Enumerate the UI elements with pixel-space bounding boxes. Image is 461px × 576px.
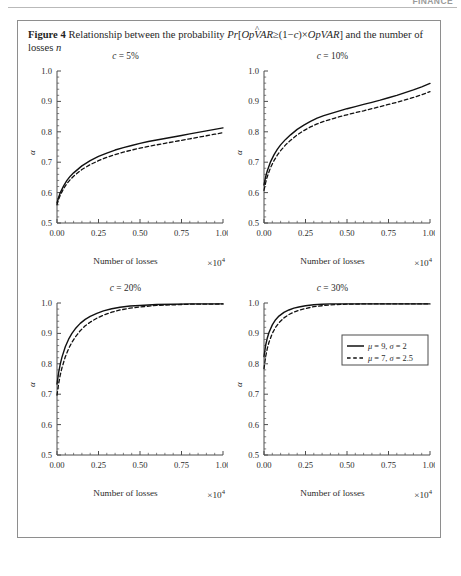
svg-text:0.6: 0.6 — [41, 420, 52, 430]
x-axis-exponent-c10: ×104 — [414, 256, 432, 268]
running-head-rule — [8, 7, 457, 8]
figure-caption-text-1: Relationship between the probability — [68, 29, 227, 40]
svg-text:0.25: 0.25 — [91, 460, 106, 470]
chart-title-c10: c = 10% — [230, 51, 435, 61]
svg-text:1.00: 1.00 — [422, 460, 435, 470]
svg-text:1.0: 1.0 — [248, 66, 259, 76]
figure-caption-label: Figure 4 — [28, 29, 66, 40]
x-axis-title-c30: Number of losses — [230, 488, 435, 498]
x-axis-title-c5: Number of losses — [23, 256, 228, 266]
svg-text:μ = 9, σ = 2: μ = 9, σ = 2 — [367, 342, 407, 351]
svg-text:1.00: 1.00 — [215, 228, 228, 238]
chart-title-value-c10: 10% — [331, 51, 348, 61]
formula-pr: Pr — [227, 29, 238, 40]
svg-text:1.0: 1.0 — [41, 298, 52, 308]
x-exp-power-c10: 4 — [429, 256, 432, 263]
chart-plot-c30: 1.00.90.80.70.60.50.000.250.500.751.00μ … — [230, 295, 435, 491]
chart-title-c20: c = 20% — [23, 283, 228, 293]
svg-text:0.75: 0.75 — [174, 460, 189, 470]
svg-text:0.00: 0.00 — [256, 228, 271, 238]
formula-times: )× — [298, 29, 308, 40]
svg-text:0.75: 0.75 — [381, 228, 396, 238]
chart-title-c30: c = 30% — [230, 283, 435, 293]
x-exp-base-c5: ×10 — [207, 258, 221, 268]
x-exp-base-c10: ×10 — [414, 258, 428, 268]
svg-text:0.00: 0.00 — [49, 460, 64, 470]
chart-title-eq-c5: = — [116, 51, 126, 61]
chart-title-value-c20: 20% — [124, 283, 141, 293]
chart-title-eq-c30: = — [321, 283, 331, 293]
chart-plot-c5: 1.00.90.80.70.60.50.000.250.500.751.00 — [23, 63, 228, 259]
svg-text:0.6: 0.6 — [248, 188, 259, 198]
chart-title-c5: c = 5% — [23, 51, 228, 61]
running-head-text: FINANCE — [412, 0, 453, 6]
figure-container: Figure 4 Relationship between the probab… — [17, 20, 441, 538]
svg-text:0.8: 0.8 — [248, 127, 259, 137]
svg-text:1.00: 1.00 — [215, 460, 228, 470]
svg-text:μ = 7, σ = 2.5: μ = 7, σ = 2.5 — [367, 354, 413, 363]
svg-text:0.9: 0.9 — [41, 328, 52, 338]
svg-text:0.50: 0.50 — [339, 228, 354, 238]
svg-text:0.7: 0.7 — [41, 389, 52, 399]
chart-panel-c10: c = 10% α 1.00.90.80.70.60.50.000.250.50… — [230, 51, 435, 283]
svg-text:1.00: 1.00 — [422, 228, 435, 238]
svg-text:0.7: 0.7 — [41, 157, 52, 167]
svg-text:0.6: 0.6 — [248, 420, 259, 430]
chart-plot-c20: 1.00.90.80.70.60.50.000.250.500.751.00 — [23, 295, 228, 491]
x-axis-title-c10: Number of losses — [230, 256, 435, 266]
svg-text:0.25: 0.25 — [298, 460, 313, 470]
svg-text:0.7: 0.7 — [248, 389, 259, 399]
x-exp-power-c30: 4 — [429, 488, 432, 495]
svg-text:0.5: 0.5 — [248, 218, 259, 228]
svg-text:0.50: 0.50 — [339, 460, 354, 470]
chart-panel-c20: c = 20% α 1.00.90.80.70.60.50.000.250.50… — [23, 283, 228, 515]
chart-title-eq-c10: = — [321, 51, 331, 61]
svg-text:0.25: 0.25 — [91, 228, 106, 238]
svg-text:0.50: 0.50 — [132, 228, 147, 238]
svg-text:0.75: 0.75 — [381, 460, 396, 470]
x-exp-power-c5: 4 — [222, 256, 225, 263]
formula-opvar: OpVAR — [308, 29, 340, 40]
x-axis-exponent-c20: ×104 — [207, 488, 225, 500]
x-exp-base-c20: ×10 — [207, 490, 221, 500]
x-axis-title-c20: Number of losses — [23, 488, 228, 498]
svg-text:0.9: 0.9 — [248, 328, 259, 338]
x-axis-exponent-c5: ×104 — [207, 256, 225, 268]
chart-panel-c5: c = 5% α 1.00.90.80.70.60.50.000.250.500… — [23, 51, 228, 283]
svg-text:0.8: 0.8 — [248, 359, 259, 369]
svg-text:0.75: 0.75 — [174, 228, 189, 238]
running-head: FINANCE — [0, 0, 461, 12]
svg-text:0.9: 0.9 — [248, 96, 259, 106]
svg-text:0.8: 0.8 — [41, 359, 52, 369]
svg-text:0.7: 0.7 — [248, 157, 259, 167]
svg-text:0.25: 0.25 — [298, 228, 313, 238]
svg-text:0.6: 0.6 — [41, 188, 52, 198]
svg-text:1.0: 1.0 — [41, 66, 52, 76]
formula-opvar-hat: ^OpVAR — [241, 28, 273, 41]
svg-text:0.00: 0.00 — [256, 460, 271, 470]
svg-text:0.5: 0.5 — [41, 218, 52, 228]
chart-panel-c30: c = 30% α 1.00.90.80.70.60.50.000.250.50… — [230, 283, 435, 515]
chart-title-value-c5: 5% — [126, 51, 139, 61]
x-exp-power-c20: 4 — [222, 488, 225, 495]
svg-text:0.8: 0.8 — [41, 127, 52, 137]
hat-accent: ^ — [255, 25, 259, 34]
chart-title-value-c30: 30% — [331, 283, 348, 293]
svg-text:1.0: 1.0 — [248, 298, 259, 308]
formula-middle: ≥(1− — [273, 29, 294, 40]
svg-text:0.5: 0.5 — [41, 450, 52, 460]
x-exp-base-c30: ×10 — [414, 490, 428, 500]
svg-text:0.5: 0.5 — [248, 450, 259, 460]
svg-text:0.00: 0.00 — [49, 228, 64, 238]
svg-text:0.50: 0.50 — [132, 460, 147, 470]
chart-plot-c10: 1.00.90.80.70.60.50.000.250.500.751.00 — [230, 63, 435, 259]
x-axis-exponent-c30: ×104 — [414, 488, 432, 500]
svg-text:0.9: 0.9 — [41, 96, 52, 106]
chart-title-eq-c20: = — [114, 283, 124, 293]
